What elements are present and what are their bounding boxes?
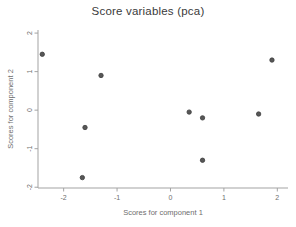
y-tick-label: 1 <box>27 70 34 74</box>
data-point <box>270 58 274 62</box>
data-point <box>200 116 204 120</box>
plot-area: -2-1012-2-1012 <box>0 0 296 227</box>
x-tick-label: 1 <box>222 194 226 201</box>
data-point <box>99 73 103 77</box>
data-point <box>256 112 260 116</box>
x-axis-label: Scores for component 1 <box>123 208 203 217</box>
scatter-plot-figure: Score variables (pca) Scores for compone… <box>0 0 296 227</box>
y-tick-label: -2 <box>27 184 34 190</box>
data-point <box>83 125 87 129</box>
data-point <box>40 52 44 56</box>
y-tick-label: -1 <box>27 145 34 151</box>
data-point <box>80 175 84 179</box>
x-tick-label: 0 <box>169 194 173 201</box>
x-tick-label: -1 <box>114 194 120 201</box>
x-tick-label: -2 <box>61 194 67 201</box>
y-tick-label: 2 <box>27 31 34 35</box>
data-point <box>187 110 191 114</box>
y-tick-label: 0 <box>27 108 34 112</box>
data-point <box>200 158 204 162</box>
x-tick-label: 2 <box>275 194 279 201</box>
